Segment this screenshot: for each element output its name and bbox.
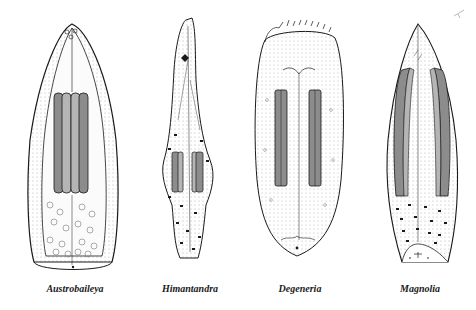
austrobaileya-illustration <box>20 0 130 280</box>
specimen-austrobaileya <box>20 0 130 280</box>
specimen-himantandra <box>150 0 230 280</box>
degeneria-illustration <box>245 0 375 280</box>
pollen-sacs <box>54 93 88 193</box>
label-magnolia: Magnolia <box>370 283 470 294</box>
specimen-degeneria <box>245 0 375 280</box>
label-degeneria: Degeneria <box>245 283 355 294</box>
specimen-magnolia <box>380 0 476 280</box>
magnolia-illustration <box>380 0 476 280</box>
label-austrobaileya: Austrobaileya <box>20 283 130 294</box>
himantandra-illustration <box>150 0 230 280</box>
stamen-comparison-figure: Austrobaileya <box>0 0 476 310</box>
label-himantandra: Himantandra <box>140 283 240 294</box>
